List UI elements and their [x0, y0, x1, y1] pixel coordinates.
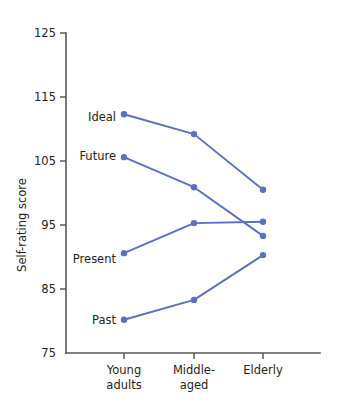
- y-axis-title: Self-rating score: [15, 178, 29, 272]
- y-tick-label-75: 75: [41, 346, 56, 360]
- data-point-future-2: [260, 233, 266, 239]
- chart-svg: 125 115 105 95 85 75 Self-rating score Y…: [0, 0, 339, 408]
- x-tick-label-middle-aged-line2: aged: [180, 378, 209, 392]
- series-label-ideal: Ideal: [88, 110, 116, 124]
- y-tick-label-95: 95: [41, 218, 56, 232]
- series-line-ideal: [124, 114, 263, 190]
- x-tick-label-young-adults-line2: adults: [106, 378, 141, 392]
- x-tick-label-middle-aged-line1: Middle-: [173, 363, 215, 377]
- y-tick-label-85: 85: [41, 282, 56, 296]
- line-chart: 125 115 105 95 85 75 Self-rating score Y…: [0, 0, 339, 408]
- series-line-past: [124, 255, 263, 320]
- data-point-present-2: [260, 219, 266, 225]
- data-point-present-0: [121, 250, 127, 256]
- y-tick-label-115: 115: [34, 90, 56, 104]
- data-point-ideal-0: [121, 111, 127, 117]
- y-tick-label-105: 105: [34, 154, 56, 168]
- data-point-past-0: [121, 317, 127, 323]
- series-layer: [121, 111, 266, 323]
- series-line-present: [124, 222, 263, 253]
- data-point-future-0: [121, 154, 127, 160]
- series-label-past: Past: [92, 313, 116, 327]
- y-tick-label-125: 125: [34, 26, 56, 40]
- series-label-future: Future: [79, 149, 116, 163]
- data-point-ideal-2: [260, 187, 266, 193]
- data-point-past-2: [260, 252, 266, 258]
- data-point-present-1: [191, 220, 197, 226]
- series-label-present: Present: [73, 252, 117, 266]
- x-tick-label-young-adults-line1: Young: [106, 363, 141, 377]
- data-point-ideal-1: [191, 131, 197, 137]
- x-tick-label-elderly: Elderly: [243, 363, 283, 377]
- data-point-future-1: [191, 184, 197, 190]
- data-point-past-1: [191, 297, 197, 303]
